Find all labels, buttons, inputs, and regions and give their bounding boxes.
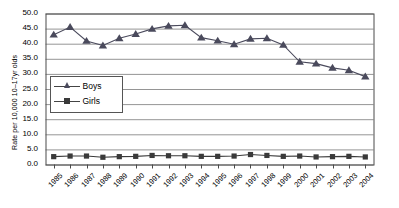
legend-label-girls: Girls	[80, 95, 100, 107]
square-marker-icon	[54, 95, 80, 107]
line-chart: Rate per 10,000 10–17yr olds 0.05.010.01…	[0, 0, 399, 208]
legend-item-girls: Girls	[54, 94, 118, 109]
triangle-marker-icon	[54, 80, 80, 92]
legend-item-boys: Boys	[54, 79, 118, 94]
legend: Boys Girls	[50, 76, 123, 113]
legend-label-boys: Boys	[80, 80, 102, 92]
